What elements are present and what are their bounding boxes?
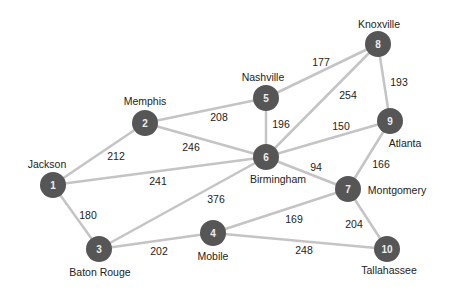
node-2: 2 (132, 110, 158, 136)
edge-weight: 204 (345, 218, 363, 230)
edge-weight: 166 (372, 158, 390, 170)
edge-weight: 254 (339, 89, 357, 101)
edge-4-7 (213, 189, 348, 233)
node-1: 1 (40, 172, 66, 198)
city-label: Baton Rouge (69, 266, 130, 278)
city-label: Jackson (28, 158, 67, 170)
node-5: 5 (253, 85, 279, 111)
city-label: Nashville (242, 71, 285, 83)
node-10: 10 (374, 236, 400, 262)
city-label: Memphis (124, 95, 167, 107)
node-4: 4 (200, 220, 226, 246)
edge-weight: 196 (272, 118, 290, 130)
edge-weight: 193 (390, 76, 408, 88)
city-label: Birmingham (250, 173, 306, 185)
edge-weight: 248 (295, 244, 313, 256)
city-label: Tallahassee (361, 264, 416, 276)
node-7: 7 (335, 176, 361, 202)
node-8: 8 (365, 31, 391, 57)
edge-weight: 180 (79, 209, 97, 221)
edge-weight: 208 (210, 111, 228, 123)
city-label: Montgomery (368, 184, 426, 196)
node-6: 6 (253, 144, 279, 170)
edge-weight: 177 (312, 56, 330, 68)
node-9: 9 (377, 108, 403, 134)
edge-weight: 212 (107, 150, 125, 162)
edge-weight: 376 (207, 193, 225, 205)
city-label: Atlanta (389, 137, 422, 149)
edge-weight: 246 (182, 141, 200, 153)
edge-weight: 202 (150, 245, 168, 257)
edge-weight: 94 (310, 161, 322, 173)
edge-weight: 169 (285, 213, 303, 225)
graph-diagram: 2122411802082463762021692481961772541509… (0, 0, 449, 294)
city-label: Knoxville (358, 18, 400, 30)
city-label: Mobile (198, 250, 229, 262)
edge-weight: 150 (332, 120, 350, 132)
edge-2-6 (145, 123, 266, 157)
edge-weight: 241 (149, 175, 167, 187)
node-3: 3 (86, 236, 112, 262)
